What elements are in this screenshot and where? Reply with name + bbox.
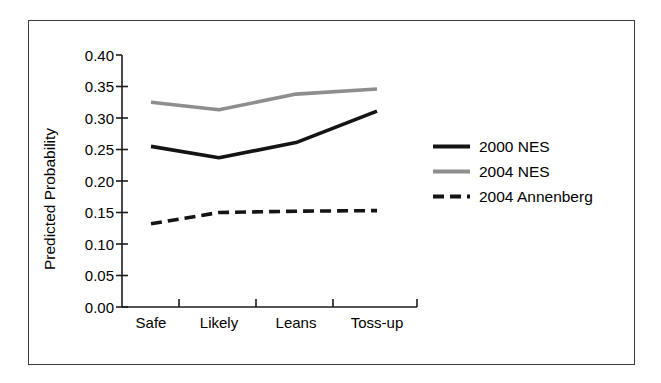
y-tick-label: 0.25 bbox=[85, 141, 114, 158]
x-tick-labels: Safe Likely Leans Toss-up bbox=[136, 314, 404, 331]
series-line-2004-nes bbox=[151, 89, 377, 110]
x-tick-marks bbox=[179, 299, 417, 307]
series-line-2000-nes bbox=[151, 111, 377, 158]
y-tick-label: 0.20 bbox=[85, 173, 114, 190]
y-tick-label: 0.40 bbox=[85, 47, 114, 64]
y-tick-labels: 0.40 0.35 0.30 0.25 0.20 0.15 0.10 0.05 … bbox=[85, 47, 114, 316]
x-tick-label-tossup: Toss-up bbox=[351, 314, 404, 331]
series-line-2004-annenberg bbox=[151, 211, 377, 224]
x-tick-label-leans: Leans bbox=[276, 314, 317, 331]
x-tick-label-likely: Likely bbox=[200, 314, 239, 331]
y-tick-label: 0.30 bbox=[85, 110, 114, 127]
legend-label: 2004 NES bbox=[479, 163, 550, 180]
legend-item-2000-nes[interactable]: 2000 NES bbox=[433, 138, 550, 155]
legend-label: 2004 Annenberg bbox=[479, 188, 593, 205]
legend-label: 2000 NES bbox=[479, 138, 550, 155]
y-tick-label: 0.00 bbox=[85, 299, 114, 316]
y-tick-label: 0.05 bbox=[85, 267, 114, 284]
legend-item-2004-nes[interactable]: 2004 NES bbox=[433, 163, 550, 180]
series-layer bbox=[151, 89, 377, 224]
y-tick-label: 0.35 bbox=[85, 78, 114, 95]
y-tick-label: 0.15 bbox=[85, 204, 114, 221]
figure-frame: Predicted Probability 0.40 0.35 0.30 0.2… bbox=[28, 20, 635, 365]
legend-item-2004-annenberg[interactable]: 2004 Annenberg bbox=[433, 188, 593, 205]
line-chart: Predicted Probability 0.40 0.35 0.30 0.2… bbox=[29, 21, 636, 366]
x-tick-label-safe: Safe bbox=[136, 314, 167, 331]
y-axis-title: Predicted Probability bbox=[41, 128, 58, 270]
legend: 2000 NES 2004 NES 2004 Annenberg bbox=[433, 138, 593, 205]
y-tick-label: 0.10 bbox=[85, 236, 114, 253]
